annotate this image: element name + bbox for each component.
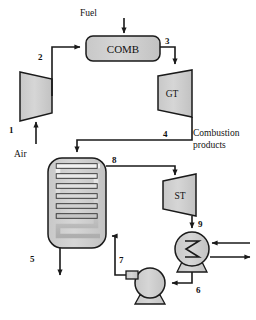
stream-4-path	[77, 117, 192, 152]
steam-turbine-unit[interactable]: ST	[163, 174, 196, 216]
stream-label-2: 2	[38, 52, 43, 62]
stream-label-4: 4	[163, 129, 168, 139]
pump-unit[interactable]	[126, 268, 165, 304]
stream-6-line	[172, 272, 192, 283]
combustor-unit[interactable]: COMB	[86, 36, 160, 61]
compressor-unit[interactable]	[20, 72, 52, 121]
pump-inlet-stub	[126, 271, 138, 279]
stream-6-path	[172, 272, 192, 283]
compressor-body[interactable]	[20, 72, 52, 121]
stream-8-line	[106, 166, 175, 175]
gas-turbine-unit[interactable]: GT	[158, 70, 192, 117]
diagram-canvas: Fuel COMB GT ST	[0, 0, 256, 320]
stream-2-line	[52, 47, 80, 96]
fuel-label: Fuel	[80, 8, 97, 18]
stream-label-1: 1	[9, 125, 14, 135]
stream-label-8: 8	[112, 155, 117, 165]
stream-label-3: 3	[165, 36, 170, 46]
stream-3-path	[160, 47, 175, 64]
hrsg-unit[interactable]	[48, 158, 106, 248]
stream-label-6: 6	[196, 285, 201, 295]
combustion-products-line1: Combustion	[193, 128, 240, 138]
combustion-products-line2: products	[193, 140, 226, 150]
condenser-body[interactable]	[175, 232, 209, 266]
stream-label-7: 7	[119, 255, 124, 265]
combustor-label: COMB	[107, 43, 139, 55]
stream-3-line	[160, 47, 175, 64]
stream-4-line	[77, 117, 192, 152]
stream-2-path	[52, 47, 80, 96]
condenser-unit[interactable]	[175, 232, 209, 272]
stream-label-5: 5	[30, 254, 35, 264]
gas-turbine-label: GT	[166, 89, 179, 99]
pump-body[interactable]	[135, 268, 165, 298]
air-label: Air	[14, 149, 28, 159]
steam-turbine-label: ST	[174, 191, 185, 201]
process-flow-diagram: Fuel COMB GT ST	[0, 0, 256, 320]
stream-8-path	[106, 166, 175, 175]
stream-label-9: 9	[198, 219, 203, 229]
